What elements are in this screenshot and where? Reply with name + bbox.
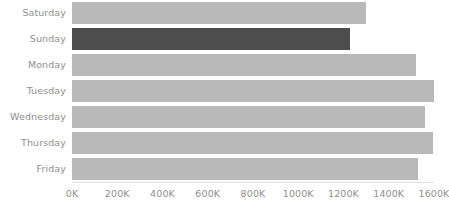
x-axis-tick-label: 1600K: [419, 188, 449, 200]
bar[interactable]: [72, 54, 416, 76]
x-axis-line: [72, 182, 434, 183]
y-axis-category-labels: SaturdaySundayMondayTuesdayWednesdayThur…: [0, 0, 66, 182]
bar[interactable]: [72, 158, 418, 180]
bar[interactable]: [72, 106, 425, 128]
x-axis-tick-label: 200K: [105, 188, 130, 200]
bar-highlighted[interactable]: [72, 28, 350, 50]
x-axis-tick-label: 1400K: [373, 188, 404, 200]
x-axis-tick-label: 1200K: [328, 188, 359, 200]
y-axis-category-label: Thursday: [0, 138, 66, 148]
x-axis-tick-label: 1000K: [283, 188, 314, 200]
y-axis-category-label: Monday: [0, 60, 66, 70]
y-axis-category-label: Tuesday: [0, 86, 66, 96]
bar[interactable]: [72, 2, 366, 24]
y-axis-category-label: Friday: [0, 164, 66, 174]
bar[interactable]: [72, 132, 433, 154]
x-axis-tick-label: 800K: [241, 188, 266, 200]
x-axis-tick-label: 600K: [195, 188, 220, 200]
x-axis-tick-label: 400K: [150, 188, 175, 200]
y-axis-category-label: Sunday: [0, 34, 66, 44]
x-axis-tick-labels: 0K200K400K600K800K1000K1200K1400K1600K: [0, 188, 434, 204]
y-axis-category-label: Wednesday: [0, 112, 66, 122]
plot-area: [72, 0, 434, 182]
bar[interactable]: [72, 80, 434, 102]
y-axis-category-label: Saturday: [0, 8, 66, 18]
x-axis-tick-label: 0K: [66, 188, 78, 200]
